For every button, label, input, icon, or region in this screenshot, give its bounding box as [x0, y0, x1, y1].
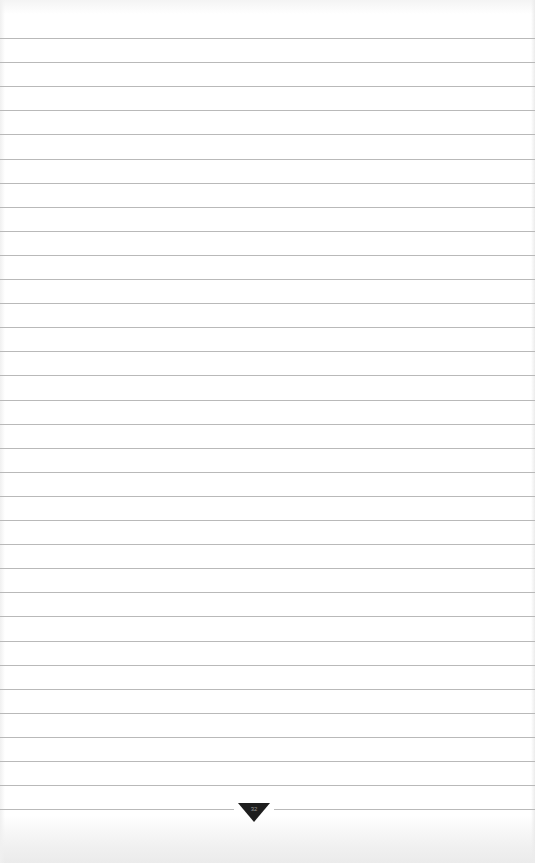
ruled-line — [0, 616, 535, 617]
ruled-line — [0, 86, 535, 87]
ruled-line — [0, 472, 535, 473]
ruled-line — [0, 448, 535, 449]
ruled-line — [0, 520, 535, 521]
ruled-line — [0, 231, 535, 232]
ruled-line — [0, 183, 535, 184]
ruled-line — [0, 544, 535, 545]
ruled-line — [0, 38, 535, 39]
ruled-line — [0, 134, 535, 135]
ruled-line — [0, 400, 535, 401]
ruled-line — [0, 327, 535, 328]
lined-paper-page: 32 — [0, 0, 535, 863]
emblem-mark-text: 32 — [248, 806, 260, 812]
ruled-line — [0, 496, 535, 497]
ruled-line — [0, 737, 535, 738]
ruled-line — [0, 641, 535, 642]
ruled-line — [0, 375, 535, 376]
page-left-edge — [0, 0, 5, 863]
ruled-line — [0, 207, 535, 208]
ruled-line — [0, 689, 535, 690]
ruled-line — [0, 665, 535, 666]
ruled-line — [0, 424, 535, 425]
page-right-edge — [531, 0, 535, 863]
ruled-line — [0, 159, 535, 160]
ruled-line — [0, 62, 535, 63]
ruled-line — [0, 303, 535, 304]
ruled-line — [0, 351, 535, 352]
ruled-line — [0, 255, 535, 256]
ruled-line — [0, 568, 535, 569]
ruled-line — [0, 713, 535, 714]
ruled-line — [0, 110, 535, 111]
ruled-line — [0, 785, 535, 786]
ruled-line — [0, 761, 535, 762]
ruled-line — [0, 592, 535, 593]
ruled-line — [0, 279, 535, 280]
